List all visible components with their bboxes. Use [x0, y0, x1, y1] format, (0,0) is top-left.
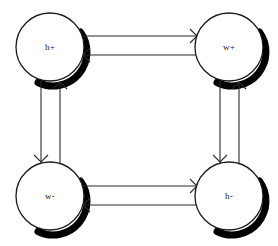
edge-bottom[interactable]: [82, 179, 198, 212]
node-h-plus-circle[interactable]: [16, 13, 84, 81]
edge-top[interactable]: [82, 29, 198, 62]
diagram-canvas: h+ w+ w- h-: [0, 0, 278, 246]
node-w-plus-circle[interactable]: [195, 13, 263, 81]
edge-right[interactable]: [213, 81, 246, 163]
diagram-graphics: [0, 0, 278, 246]
node-w-minus-circle[interactable]: [16, 162, 84, 230]
node-h-minus-circle[interactable]: [195, 162, 263, 230]
edge-left[interactable]: [34, 81, 67, 163]
node-circles: [16, 13, 263, 230]
